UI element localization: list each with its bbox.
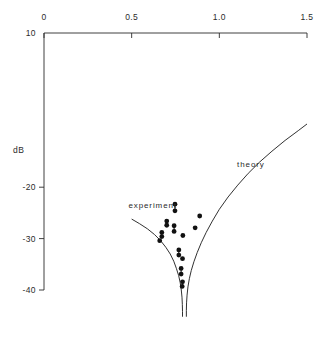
data-point (180, 233, 185, 238)
y-axis-ticks (39, 187, 44, 290)
series-label-experiment: experiment (128, 201, 177, 210)
chart-plot-area (0, 0, 322, 338)
theory-curve-group (132, 124, 307, 317)
data-point (179, 272, 184, 277)
y-axis-title: dB (13, 145, 25, 155)
data-point (157, 238, 162, 243)
data-point (159, 230, 164, 235)
x-axis-ticks (44, 33, 307, 38)
x-tick-label: 1.0 (213, 12, 226, 22)
theory-curve-left (132, 219, 183, 317)
y-tick-label: 10 (8, 28, 36, 38)
data-point (180, 284, 185, 289)
x-tick-label: 0.5 (125, 12, 138, 22)
data-point (164, 223, 169, 228)
axis-lines (44, 33, 307, 290)
y-tick-label: -30 (8, 234, 36, 244)
x-tick-label: 0 (41, 12, 46, 22)
theory-curve-right (186, 124, 307, 317)
data-point (176, 253, 181, 258)
x-tick-label: 1.5 (300, 12, 313, 22)
data-point (197, 214, 202, 219)
series-label-theory: theory (237, 160, 265, 169)
data-point (180, 256, 185, 261)
y-tick-label: -40 (8, 285, 36, 295)
data-point (172, 223, 177, 228)
data-point (179, 266, 184, 271)
data-point (172, 229, 177, 234)
data-point (180, 279, 185, 284)
data-point (176, 248, 181, 253)
data-point (164, 219, 169, 224)
data-point (159, 234, 164, 239)
y-tick-label: -20 (8, 182, 36, 192)
data-point (193, 225, 198, 230)
chart-figure: 00.51.01.5 10-20-30-40 dB experimenttheo… (0, 0, 322, 338)
